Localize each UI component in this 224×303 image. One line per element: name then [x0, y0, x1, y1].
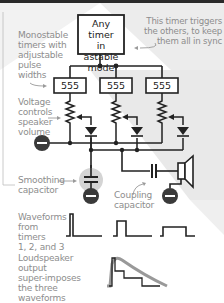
- monostable-line-3: adjustable: [18, 50, 78, 60]
- astable-box-text: Any timer in astable mode: [78, 18, 124, 73]
- astable-line-2: in astable: [78, 40, 124, 62]
- coupling-line-2: capacitor: [114, 200, 164, 210]
- speaker-body: [178, 163, 185, 179]
- monostable-line-5: widths: [18, 70, 78, 80]
- astable-line-3: mode: [78, 62, 124, 73]
- astable-line-1: Any timer: [78, 18, 124, 40]
- voltage-line-1: Voltage: [18, 97, 68, 107]
- loudspeaker-line-3: super-imposes: [18, 273, 98, 283]
- loudspeaker-line-4: the three waveforms: [18, 283, 98, 303]
- timer-label-1: 555: [54, 79, 86, 93]
- waveforms-annotation: Waveforms from timers 1, 2, and 3: [18, 212, 68, 252]
- waveforms-line-3: 1, 2, and 3: [18, 242, 68, 252]
- voltage-line-2: controls: [18, 107, 68, 117]
- monostable-line-1: Monostable: [18, 30, 78, 40]
- loudspeaker-line-1: Loudspeaker: [18, 253, 98, 263]
- waveforms: [66, 214, 195, 236]
- smoothing-line-2: capacitor: [18, 185, 68, 195]
- trigger-line-2: the others, to keep: [128, 26, 222, 36]
- smoothing-line-1: Smoothing: [18, 175, 68, 185]
- monostable-line-4: pulse: [18, 60, 78, 70]
- voltage-line-3: speaker: [18, 117, 68, 127]
- combined-waveform: [107, 258, 167, 286]
- trigger-line-1: This timer triggers: [128, 16, 222, 26]
- voltage-annotation: Voltage controls speaker volume: [18, 97, 68, 137]
- monostable-annotation: Monostable timers with adjustable pulse …: [18, 30, 78, 80]
- waveforms-line-1: Waveforms: [18, 212, 68, 222]
- voltage-line-4: volume: [18, 127, 68, 137]
- monostable-line-2: timers with: [18, 40, 78, 50]
- trigger-line-3: them all in sync: [128, 36, 222, 46]
- coupling-annotation: Coupling capacitor: [114, 190, 164, 210]
- loudspeaker-annotation: Loudspeaker output super-imposes the thr…: [18, 253, 98, 303]
- timer-label-3: 555: [146, 79, 178, 93]
- waveforms-line-2: from timers: [18, 222, 68, 242]
- trigger-annotation: This timer triggers the others, to keep …: [128, 16, 222, 46]
- timer-label-2: 555: [100, 79, 132, 93]
- loudspeaker-line-2: output: [18, 263, 98, 273]
- smoothing-annotation: Smoothing capacitor: [18, 175, 68, 195]
- coupling-line-1: Coupling: [114, 190, 164, 200]
